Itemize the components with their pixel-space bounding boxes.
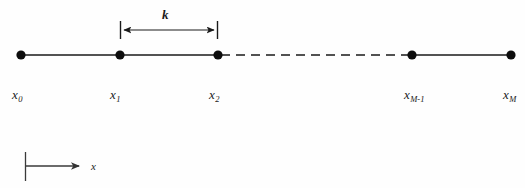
- node-label-x0: x0: [12, 88, 22, 101]
- axis-label-x: x: [91, 161, 96, 172]
- node-dot-xM: [506, 50, 515, 59]
- diagram-canvas: [0, 0, 525, 188]
- node-dot-x1: [115, 50, 124, 59]
- node-label-x2: x2: [209, 88, 219, 101]
- grid-diagram-figure: x0 x1 x2 xM-1 xM k x: [0, 0, 525, 188]
- axis-indicator: [25, 152, 79, 181]
- dimension-k: [121, 21, 218, 39]
- node-label-xM: xM: [503, 88, 516, 101]
- node-label-x1: x1: [110, 88, 120, 101]
- dimension-label-k: k: [162, 8, 169, 21]
- node-dot-x2: [213, 50, 222, 59]
- node-dot-x0: [16, 50, 25, 59]
- node-dot-xM-1: [407, 50, 416, 59]
- node-label-xM-1: xM-1: [404, 88, 424, 101]
